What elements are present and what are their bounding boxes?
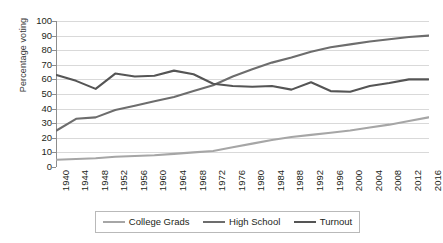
legend-entry-college-grads[interactable]: College Grads (103, 217, 190, 227)
x-tick-label: 2016 (433, 170, 443, 191)
y-tick-label: 80 (26, 45, 52, 55)
x-tick-label: 1964 (178, 170, 188, 191)
x-axis-tick-labels: 1940194419481952195619601964196819721976… (56, 170, 429, 212)
legend-entry-high-school[interactable]: High School (203, 217, 280, 227)
y-tick-label: 10 (26, 147, 52, 157)
y-axis-tick-labels: 0102030405060708090100 (22, 21, 52, 167)
x-tick-label: 2008 (393, 170, 403, 191)
x-tick-label: 2000 (354, 170, 364, 191)
x-tick-label: 1948 (100, 170, 110, 191)
x-tick-label: 1996 (335, 170, 345, 191)
y-tick-label: 0 (26, 162, 52, 172)
legend-swatch (203, 221, 225, 223)
x-tick-label: 1940 (61, 170, 71, 191)
y-tick-mark (52, 65, 56, 66)
y-tick-mark (52, 21, 56, 22)
y-tick-label: 50 (26, 89, 52, 99)
series-line-high-school (57, 36, 429, 131)
y-tick-label: 60 (26, 74, 52, 84)
x-tick-label: 2004 (374, 170, 384, 191)
y-tick-mark (52, 94, 56, 95)
y-tick-mark (52, 138, 56, 139)
x-tick-label: 2012 (413, 170, 423, 191)
x-tick-label: 1976 (237, 170, 247, 191)
legend-label: High School (229, 217, 280, 227)
legend-entry-turnout[interactable]: Turnout (294, 217, 352, 227)
y-tick-mark (52, 79, 56, 80)
y-tick-label: 70 (26, 60, 52, 70)
x-tick-label: 1980 (256, 170, 266, 191)
y-tick-mark (52, 152, 56, 153)
plot-area (56, 21, 429, 167)
x-tick-label: 1972 (217, 170, 227, 191)
y-tick-label: 30 (26, 118, 52, 128)
x-tick-label: 1956 (139, 170, 149, 191)
legend-label: College Grads (129, 217, 190, 227)
y-tick-mark (52, 50, 56, 51)
x-tick-label: 1960 (158, 170, 168, 191)
y-tick-label: 40 (26, 104, 52, 114)
legend-label: Turnout (320, 217, 352, 227)
chart-legend: College GradsHigh SchoolTurnout (95, 211, 360, 233)
legend-swatch (103, 221, 125, 223)
y-tick-mark (52, 123, 56, 124)
x-tick-label: 1944 (80, 170, 90, 191)
x-tick-label: 1988 (295, 170, 305, 191)
y-tick-label: 100 (26, 16, 52, 26)
y-tick-mark (52, 167, 56, 168)
legend-swatch (294, 221, 316, 223)
series-lines (57, 36, 429, 160)
y-tick-label: 20 (26, 133, 52, 143)
y-tick-mark (52, 36, 56, 37)
x-tick-label: 1952 (119, 170, 129, 191)
y-tick-mark (52, 109, 56, 110)
x-tick-label: 1992 (315, 170, 325, 191)
x-tick-label: 1984 (276, 170, 286, 191)
y-tick-label: 90 (26, 31, 52, 41)
x-tick-label: 1968 (198, 170, 208, 191)
plot-svg (56, 21, 429, 167)
